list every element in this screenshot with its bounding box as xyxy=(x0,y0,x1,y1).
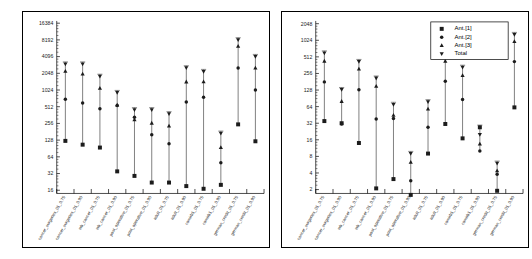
triangle-up-marker xyxy=(426,107,430,111)
data-group xyxy=(149,108,154,183)
triangle-up-marker xyxy=(201,79,205,83)
circle-marker xyxy=(323,80,326,83)
circle-marker xyxy=(340,122,343,125)
square-marker xyxy=(409,193,413,197)
series-ant1 xyxy=(322,105,516,196)
circle-marker xyxy=(440,35,443,38)
series-ant3 xyxy=(63,44,257,149)
square-marker xyxy=(440,27,444,31)
circle-marker xyxy=(167,142,170,145)
triangle-down-marker xyxy=(460,66,464,70)
y-tick-label: 4096 xyxy=(42,53,54,59)
legend-label: Ant.[1] xyxy=(455,25,473,31)
triangle-down-marker xyxy=(167,112,171,116)
circle-marker xyxy=(150,133,153,136)
triangle-down-marker xyxy=(150,108,154,112)
y-tick-label: 2 xyxy=(309,186,312,192)
y-tick-label: 64 xyxy=(48,154,54,160)
square-marker xyxy=(98,146,102,150)
data-group xyxy=(339,87,344,123)
y-tick-label: 256 xyxy=(304,70,313,76)
y-tick-label: 2048 xyxy=(301,21,313,27)
data-group xyxy=(236,38,241,125)
y-tick-label: 8 xyxy=(309,153,312,159)
circle-marker xyxy=(409,179,412,182)
square-marker xyxy=(391,177,395,181)
square-marker xyxy=(357,141,361,145)
chart-panel-left: 163264128256512102420484096819216384canc… xyxy=(22,11,270,248)
triangle-down-marker xyxy=(253,55,257,59)
triangle-down-marker xyxy=(426,100,430,104)
triangle-down-marker xyxy=(478,133,482,137)
circle-marker xyxy=(513,60,516,63)
triangle-down-marker xyxy=(115,91,119,95)
y-tick-label: 32 xyxy=(48,170,54,176)
y-tick-label: 2048 xyxy=(42,70,54,76)
chart-panel-right: 24816326412825651210242048cancer_surgeri… xyxy=(281,11,529,248)
square-marker xyxy=(219,183,223,187)
triangle-down-marker xyxy=(512,33,516,37)
legend-label: Total xyxy=(455,50,468,56)
data-group xyxy=(495,161,500,191)
circle-marker xyxy=(202,95,205,98)
circle-marker xyxy=(444,79,447,82)
triangle-up-marker xyxy=(184,80,188,84)
square-marker xyxy=(461,136,465,140)
triangle-down-marker xyxy=(219,132,223,136)
triangle-down-marker xyxy=(184,66,188,70)
y-tick-label: 16384 xyxy=(39,20,53,26)
triangle-down-marker xyxy=(132,108,136,112)
square-marker xyxy=(374,186,378,190)
triangle-down-marker xyxy=(236,38,240,42)
circle-marker xyxy=(219,161,222,164)
circle-marker xyxy=(426,126,429,129)
y-tick-label: 512 xyxy=(304,54,313,60)
triangle-down-marker xyxy=(340,88,344,92)
data-group xyxy=(374,76,379,188)
circle-marker xyxy=(236,66,239,69)
square-marker xyxy=(81,143,85,147)
triangle-up-marker xyxy=(374,84,378,88)
y-tick-label: 128 xyxy=(304,87,313,93)
y-tick-label: 4 xyxy=(309,170,312,176)
triangle-up-marker xyxy=(391,113,395,117)
data-group xyxy=(115,90,120,171)
y-tick-label: 512 xyxy=(45,104,54,110)
triangle-up-marker xyxy=(236,44,240,48)
triangle-up-marker xyxy=(357,67,361,71)
x-tick-label: adult_01_0.90 xyxy=(169,194,187,220)
square-marker xyxy=(443,122,447,126)
triangle-down-marker xyxy=(98,75,102,79)
triangle-down-marker xyxy=(63,63,67,67)
square-marker xyxy=(132,174,136,178)
y-tick-label: 1024 xyxy=(42,87,54,93)
x-tick-label: adult_01_0.90 xyxy=(428,194,446,220)
y-tick-label: 16 xyxy=(307,137,313,143)
legend-label: Ant.[3] xyxy=(455,42,473,48)
triangle-up-marker xyxy=(63,69,67,73)
circle-marker xyxy=(495,172,498,175)
circle-marker xyxy=(254,88,257,91)
scatter-plot-left: 163264128256512102420484096819216384canc… xyxy=(23,12,269,247)
square-marker xyxy=(184,184,188,188)
square-marker xyxy=(115,169,119,173)
y-tick-label: 128 xyxy=(45,137,54,143)
circle-marker xyxy=(357,88,360,91)
circle-marker xyxy=(392,117,395,120)
y-tick-label: 64 xyxy=(307,104,313,110)
triangle-up-marker xyxy=(81,72,85,76)
series-ant2 xyxy=(323,60,517,183)
square-marker xyxy=(63,139,67,143)
y-tick-label: 1024 xyxy=(301,37,313,43)
y-tick-label: 256 xyxy=(45,120,54,126)
y-tick-label: 32 xyxy=(307,120,313,126)
data-group xyxy=(218,131,223,185)
square-marker xyxy=(322,119,326,123)
triangle-down-marker xyxy=(322,51,326,55)
data-group xyxy=(512,32,517,107)
data-group xyxy=(356,59,361,143)
x-tick-label: adult_01_0.75 xyxy=(411,194,429,220)
square-marker xyxy=(512,105,516,109)
data-group xyxy=(408,151,413,195)
scatter-plot-right: 24816326412825651210242048cancer_surgeri… xyxy=(282,12,528,247)
